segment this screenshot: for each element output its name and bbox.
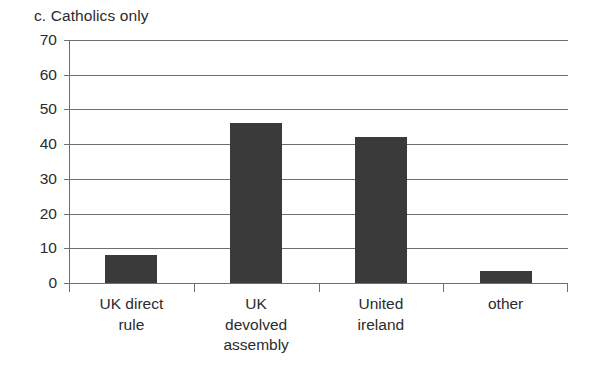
y-axis-tick-label: 0 <box>0 275 57 291</box>
x-axis-label-line: United <box>319 294 444 315</box>
x-axis-label-line: other <box>443 294 568 315</box>
gridline <box>69 75 568 76</box>
bar <box>230 123 282 283</box>
x-axis-tick <box>443 283 444 292</box>
x-axis-tick <box>567 283 568 292</box>
x-axis-label-line: assembly <box>194 335 319 356</box>
gridline <box>69 40 568 41</box>
y-axis-tick <box>64 75 70 76</box>
y-axis-tick <box>64 109 70 110</box>
gridline <box>69 214 568 215</box>
y-axis-tick <box>64 248 70 249</box>
x-axis-tick <box>319 283 320 292</box>
y-axis-tick <box>64 40 70 41</box>
y-axis-tick-label: 20 <box>0 206 57 222</box>
x-axis-label-line: rule <box>69 315 194 336</box>
gridline <box>69 144 568 145</box>
y-axis-tick-label: 60 <box>0 67 57 83</box>
x-axis-label-line: ireland <box>319 315 444 336</box>
x-axis-tick <box>69 283 70 292</box>
y-axis-tick-label: 50 <box>0 102 57 118</box>
y-axis-tick <box>64 214 70 215</box>
bar <box>105 255 157 283</box>
x-axis-category-label: other <box>443 294 568 315</box>
bar <box>480 271 532 283</box>
x-axis-label-line: UK direct <box>69 294 194 315</box>
x-axis-category-label: UKdevolvedassembly <box>194 294 319 356</box>
y-axis-tick-label: 70 <box>0 32 57 48</box>
y-axis-tick <box>64 179 70 180</box>
chart-title: c. Catholics only <box>34 7 149 25</box>
x-axis-category-labels: UK directruleUKdevolvedassemblyUnitedire… <box>69 294 568 379</box>
y-axis-tick-label: 30 <box>0 171 57 187</box>
bar <box>355 137 407 283</box>
x-axis-category-label: UK directrule <box>69 294 194 335</box>
x-axis-tick <box>194 283 195 292</box>
bar-chart-figure: c. Catholics only 010203040506070 UK dir… <box>0 0 592 385</box>
gridline <box>69 179 568 180</box>
y-axis-tick <box>64 144 70 145</box>
x-axis-category-label: Unitedireland <box>319 294 444 335</box>
y-axis-tick-label: 40 <box>0 136 57 152</box>
gridline <box>69 109 568 110</box>
x-axis-label-line: devolved <box>194 315 319 336</box>
plot-area <box>69 40 568 283</box>
y-axis-tick-label: 10 <box>0 241 57 257</box>
y-axis-line <box>69 40 70 283</box>
x-axis-label-line: UK <box>194 294 319 315</box>
gridline <box>69 248 568 249</box>
